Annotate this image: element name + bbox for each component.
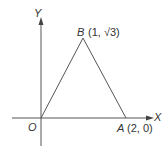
side-BA: [83, 38, 126, 118]
origin-label: O: [28, 121, 37, 133]
point-A-coords: (2, 0): [127, 122, 153, 134]
coordinate-diagram: Y X O B (1, √3) A (2, 0): [0, 0, 166, 151]
y-axis-label: Y: [34, 7, 42, 19]
point-B-coords: (1, √3): [88, 26, 120, 38]
x-axis-label: X: [153, 111, 162, 123]
side-OB: [41, 38, 83, 118]
point-A-label: A: [116, 122, 124, 134]
point-B-label: B: [77, 26, 84, 38]
x-axis-arrow-icon: [146, 116, 154, 121]
